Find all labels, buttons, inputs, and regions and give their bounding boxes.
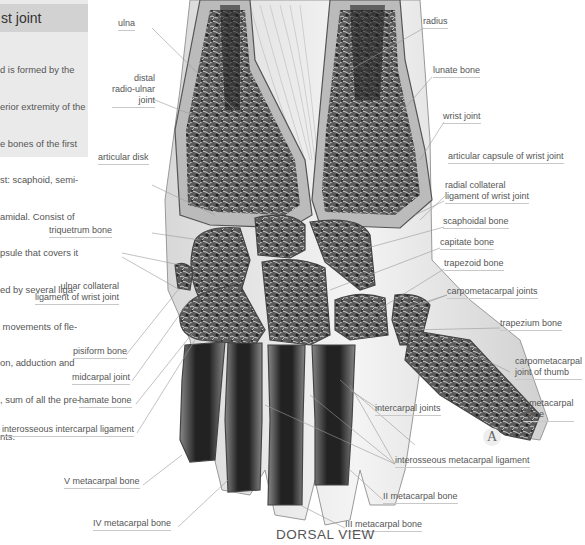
label-articular-disk: articular disk [98,152,149,165]
figure-mark: A [483,428,501,446]
view-title: DORSAL VIEW [276,527,375,542]
label-radius: radius [423,16,448,29]
label-carpometacarpal-joint-of-thumb: carpometacarpal joint of thumb [515,356,582,380]
label-hamate-bone: hamate bone [79,395,132,408]
label-trapezoid-bone: trapezoid bone [444,258,504,271]
label-radial-collateral-ligament: radial collateral ligament of wrist join… [445,180,529,204]
label-intercarpal-joints: intercarpal joints [375,403,441,416]
label-capitate-bone: capitate bone [440,237,494,250]
label-articular-capsule: articular capsule of wrist joint [448,151,564,164]
label-lunate-bone: lunate bone [433,65,480,78]
label-midcarpal-joint: midcarpal joint [72,372,130,385]
label-carpometacarpal-joints: carpometacarpal joints [447,286,538,299]
label-ulna: ulna [118,18,135,31]
label-i-metacarpal-bone: I metacarpal bone [524,398,574,422]
label-distal-radio-ulnar-joint: distal radio-ulnar joint [112,73,155,108]
label-interosseous-metacarpal-ligament: interosseous metacarpal ligament [395,455,530,468]
label-iv-metacarpal-bone: IV metacarpal bone [93,518,171,531]
label-triquetrum-bone: triquetrum bone [49,225,112,238]
label-scaphoidal-bone: scaphoidal bone [443,216,509,229]
label-pisiform-bone: pisiform bone [73,346,127,359]
label-ii-metacarpal-bone: II metacarpal bone [383,491,458,504]
label-trapezium-bone: trapezium bone [500,318,562,331]
label-wrist-joint: wrist joint [443,111,481,124]
label-v-metacarpal-bone: V metacarpal bone [64,476,140,489]
label-ulnar-collateral-ligament: ulnar collateral ligament of wrist joint [35,281,119,305]
label-interosseous-intercarpal-ligament: interosseous intercarpal ligament [2,424,134,437]
